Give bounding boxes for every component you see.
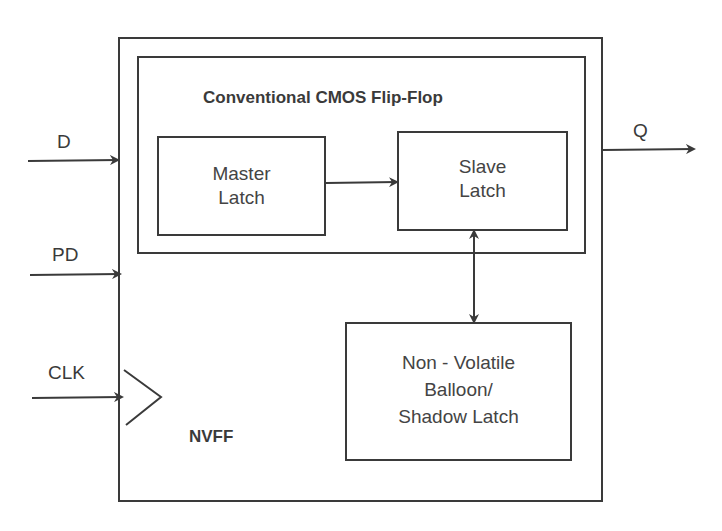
pd-input-arrow: [30, 274, 120, 275]
slave-latch-label: Slave Latch: [397, 129, 568, 229]
q-output-arrow: [603, 149, 694, 150]
clk-input-label: CLK: [48, 362, 85, 384]
d-input-label: D: [57, 131, 71, 153]
slave-latch-line2: Latch: [459, 179, 505, 203]
d-input-arrow: [28, 160, 118, 161]
slave-latch-line1: Slave: [459, 155, 507, 179]
cmos-flipflop-title: Conventional CMOS Flip-Flop: [203, 88, 443, 108]
master-latch-line2: Latch: [218, 186, 264, 210]
pd-input-label: PD: [52, 244, 78, 266]
nv-latch-line2: Balloon/: [424, 376, 493, 403]
nvff-label: NVFF: [189, 427, 233, 447]
master-latch-label: Master Latch: [157, 136, 326, 236]
master-latch-line1: Master: [212, 162, 270, 186]
nv-latch-line1: Non - Volatile: [402, 349, 515, 376]
nv-shadow-latch-label: Non - Volatile Balloon/ Shadow Latch: [345, 320, 572, 459]
q-output-label: Q: [633, 120, 648, 142]
clk-input-arrow: [32, 397, 122, 398]
nv-latch-line3: Shadow Latch: [398, 403, 518, 430]
